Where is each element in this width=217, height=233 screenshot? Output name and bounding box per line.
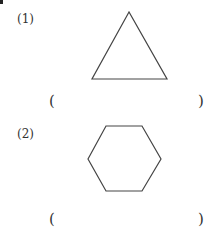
answer-close-paren: ) — [198, 210, 204, 228]
hexagon-figure — [0, 0, 217, 233]
answer-open-paren: ( — [49, 210, 55, 228]
